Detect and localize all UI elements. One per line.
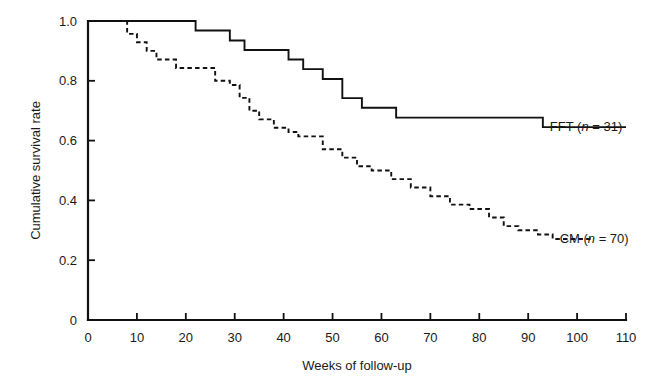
x-tick-label: 30 — [227, 330, 241, 345]
x-tick-label: 20 — [179, 330, 193, 345]
x-tick-label: 40 — [276, 330, 290, 345]
x-tick-label: 100 — [566, 330, 588, 345]
series-label-cm: CM (n = 70) — [560, 231, 629, 246]
series-line-cm — [88, 21, 592, 239]
survival-chart: 00.20.40.60.81.0 Cumulative survival rat… — [0, 0, 664, 383]
x-tick-label: 10 — [130, 330, 144, 345]
series-label-fft: FFT (n = 31) — [550, 119, 622, 134]
x-tick-label: 80 — [472, 330, 486, 345]
x-tick-label: 90 — [521, 330, 535, 345]
y-tick-label: 0 — [70, 313, 77, 328]
x-axis: 0102030405060708090100110 Weeks of follo… — [84, 313, 636, 373]
y-tick-group: 00.20.40.60.81.0 — [59, 14, 95, 328]
x-axis-title: Weeks of follow-up — [302, 358, 412, 373]
y-tick-label: 0.2 — [59, 253, 77, 268]
plot-area — [88, 21, 626, 239]
x-tick-label: 50 — [325, 330, 339, 345]
y-axis-title: Cumulative survival rate — [28, 101, 43, 240]
x-tick-label: 70 — [423, 330, 437, 345]
series-line-fft — [88, 21, 626, 127]
x-tick-label: 60 — [374, 330, 388, 345]
x-tick-label: 0 — [84, 330, 91, 345]
y-tick-label: 0.8 — [59, 73, 77, 88]
x-tick-label: 110 — [616, 330, 637, 345]
y-tick-label: 0.6 — [59, 133, 77, 148]
y-tick-label: 0.4 — [59, 193, 77, 208]
series-label-group: FFT (n = 31)CM (n = 70) — [550, 119, 629, 246]
x-tick-group: 0102030405060708090100110 — [84, 313, 636, 345]
y-tick-label: 1.0 — [59, 14, 77, 29]
y-axis: 00.20.40.60.81.0 Cumulative survival rat… — [28, 14, 95, 328]
